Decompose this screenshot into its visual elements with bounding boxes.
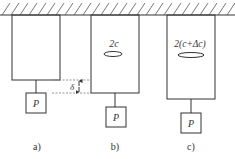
panel-label-c: c) bbox=[187, 141, 195, 153]
weight-label-a: P bbox=[32, 98, 39, 109]
diagram-canvas: P a) δ 2c P b) 2(c+Δc) P c) bbox=[0, 0, 235, 159]
delta-label: δ bbox=[70, 82, 75, 92]
crack-b-icon bbox=[104, 52, 122, 57]
weight-label-c: P bbox=[187, 118, 194, 129]
crack-label-c: 2(c+Δc) bbox=[174, 39, 206, 50]
weight-label-b: P bbox=[112, 112, 119, 123]
crack-label-b: 2c bbox=[109, 38, 119, 49]
fixed-ceiling bbox=[0, 3, 235, 15]
panel-c: 2(c+Δc) P c) bbox=[167, 15, 215, 153]
block-b bbox=[91, 15, 139, 93]
panel-b: 2c P b) bbox=[91, 15, 139, 153]
panel-a: P a) bbox=[12, 15, 60, 153]
panel-label-a: a) bbox=[33, 141, 41, 153]
block-a bbox=[12, 15, 60, 80]
displacement-indicator: δ bbox=[52, 80, 91, 93]
hatch-lines bbox=[2, 3, 235, 15]
crack-c-icon bbox=[178, 53, 204, 58]
panel-label-b: b) bbox=[111, 141, 119, 153]
